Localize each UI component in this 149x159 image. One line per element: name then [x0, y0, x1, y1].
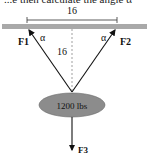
weight-label: 1200 lbs [57, 101, 88, 111]
angle-right-label: α [101, 32, 107, 43]
angle-left-label: α [40, 32, 46, 43]
ceiling-beam [2, 24, 147, 29]
force-diagram: 16 16 F1 F2 α α 1200 lbs F3 [0, 0, 149, 159]
force-arrow-f1 [29, 30, 72, 92]
height-label: 16 [57, 46, 67, 57]
force-arrow-f2 [72, 30, 115, 92]
force-label-f3: F3 [78, 145, 88, 155]
force-label-f1: F1 [18, 36, 29, 47]
force-label-f2: F2 [120, 36, 131, 47]
width-label: 16 [67, 5, 77, 16]
width-dimension [27, 17, 117, 23]
